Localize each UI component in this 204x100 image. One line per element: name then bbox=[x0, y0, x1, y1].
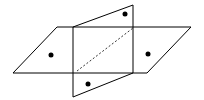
two-planes-diagram bbox=[0, 0, 204, 100]
point-dot-3 bbox=[146, 52, 151, 57]
point-dot-4 bbox=[86, 82, 91, 87]
points-group bbox=[49, 12, 151, 87]
point-dot-2 bbox=[123, 12, 128, 17]
point-dot-1 bbox=[49, 53, 54, 58]
hidden-diagonal-line bbox=[77, 28, 133, 71]
horizontal-plane bbox=[13, 27, 191, 73]
